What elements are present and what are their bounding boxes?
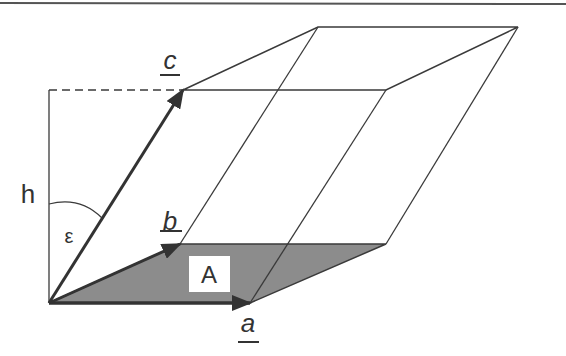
top-border xyxy=(0,3,566,4)
vector-a-label: a xyxy=(241,308,255,338)
edge-ab-to-top xyxy=(386,27,518,244)
area-label: A xyxy=(201,261,217,288)
parallelepiped-diagram: A a b c h ε xyxy=(0,0,566,356)
top-face xyxy=(183,27,518,90)
diagram-canvas: A a b c h ε xyxy=(0,0,566,356)
epsilon-label: ε xyxy=(65,225,74,247)
epsilon-angle-arc xyxy=(49,202,102,218)
height-label: h xyxy=(21,179,35,209)
vector-c-label: c xyxy=(164,45,177,75)
